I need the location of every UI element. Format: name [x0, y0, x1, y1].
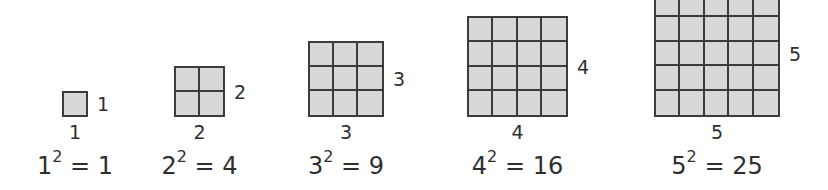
square-array-3x3 — [308, 41, 384, 117]
unit-square-cell — [680, 17, 704, 41]
unit-square-cell — [358, 43, 382, 67]
unit-square-cell — [542, 91, 566, 115]
side-length-label: 2 — [234, 83, 246, 102]
unit-square-cell — [310, 43, 334, 67]
equation-result: 4 — [222, 152, 237, 180]
equals-sign: = — [195, 152, 215, 180]
unit-square-cell — [493, 42, 517, 66]
equals-sign: = — [341, 152, 361, 180]
equation-exponent: 2 — [687, 147, 697, 166]
unit-square-cell — [705, 91, 729, 115]
bottom-length-label: 5 — [687, 123, 747, 142]
unit-square-cell — [334, 67, 358, 91]
unit-square-cell — [729, 66, 753, 90]
unit-square-cell — [680, 42, 704, 66]
side-length-label: 5 — [789, 45, 801, 64]
unit-square-cell — [705, 66, 729, 90]
unit-square-cell — [176, 68, 200, 92]
square-equation: 22 = 4 — [130, 153, 270, 179]
unit-square-cell — [656, 91, 680, 115]
equation-result: 1 — [98, 152, 113, 180]
equation-exponent: 2 — [323, 147, 333, 166]
equation-base: 1 — [37, 152, 52, 180]
unit-square-cell — [469, 42, 493, 66]
unit-square-cell — [358, 67, 382, 91]
equals-sign: = — [704, 152, 724, 180]
square-equation: 42 = 16 — [448, 153, 588, 179]
unit-square-cell — [542, 67, 566, 91]
equation-result: 16 — [533, 152, 564, 180]
unit-square-cell — [680, 91, 704, 115]
equation-base: 2 — [161, 152, 176, 180]
unit-square-cell — [705, 0, 729, 17]
unit-square-cell — [469, 67, 493, 91]
unit-square-cell — [518, 67, 542, 91]
bottom-length-label: 3 — [316, 123, 376, 142]
unit-square-cell — [754, 0, 778, 17]
square-equation: 52 = 25 — [647, 153, 787, 179]
unit-square-cell — [493, 91, 517, 115]
unit-square-cell — [754, 66, 778, 90]
unit-square-cell — [729, 0, 753, 17]
unit-square-cell — [705, 17, 729, 41]
equation-result: 25 — [732, 152, 763, 180]
unit-square-cell — [358, 91, 382, 115]
unit-square-cell — [334, 91, 358, 115]
unit-square-cell — [310, 91, 334, 115]
unit-square-cell — [469, 18, 493, 42]
square-array-4x4 — [467, 16, 568, 117]
unit-square-cell — [680, 0, 704, 17]
equation-base: 5 — [671, 152, 686, 180]
unit-square-cell — [754, 17, 778, 41]
unit-square-cell — [200, 92, 224, 116]
unit-square-cell — [493, 67, 517, 91]
unit-square-cell — [518, 42, 542, 66]
equation-base: 4 — [472, 152, 487, 180]
unit-square-cell — [729, 17, 753, 41]
unit-square-cell — [518, 18, 542, 42]
unit-square-cell — [200, 68, 224, 92]
unit-square-cell — [680, 66, 704, 90]
bottom-length-label: 1 — [45, 123, 105, 142]
unit-square-cell — [310, 67, 334, 91]
unit-square-cell — [542, 42, 566, 66]
side-length-label: 1 — [97, 95, 109, 114]
unit-square-cell — [656, 66, 680, 90]
unit-square-cell — [542, 18, 566, 42]
unit-square-cell — [176, 92, 200, 116]
unit-square-cell — [754, 91, 778, 115]
unit-square-cell — [754, 42, 778, 66]
equation-base: 3 — [308, 152, 323, 180]
unit-square-cell — [729, 42, 753, 66]
unit-square-cell — [656, 42, 680, 66]
equation-exponent: 2 — [487, 147, 497, 166]
equation-result: 9 — [369, 152, 384, 180]
square-equation: 32 = 9 — [276, 153, 416, 179]
equation-exponent: 2 — [177, 147, 187, 166]
square-array-2x2 — [174, 66, 225, 117]
unit-square-cell — [469, 91, 493, 115]
equals-sign: = — [70, 152, 90, 180]
square-array-5x5 — [654, 0, 780, 117]
unit-square-cell — [518, 91, 542, 115]
square-equation: 12 = 1 — [5, 153, 145, 179]
side-length-label: 4 — [577, 58, 589, 77]
unit-square-cell — [705, 42, 729, 66]
unit-square-cell — [334, 43, 358, 67]
equation-exponent: 2 — [52, 147, 62, 166]
unit-square-cell — [656, 17, 680, 41]
unit-square-cell — [729, 91, 753, 115]
side-length-label: 3 — [393, 70, 405, 89]
bottom-length-label: 2 — [170, 123, 230, 142]
equals-sign: = — [505, 152, 525, 180]
unit-square-cell — [493, 18, 517, 42]
square-array-1x1 — [62, 91, 88, 117]
unit-square-cell — [656, 0, 680, 17]
perfect-squares-figure: 1112 = 12222 = 43332 = 94442 = 165552 = … — [0, 0, 828, 190]
unit-square-cell — [64, 93, 86, 115]
bottom-length-label: 4 — [488, 123, 548, 142]
